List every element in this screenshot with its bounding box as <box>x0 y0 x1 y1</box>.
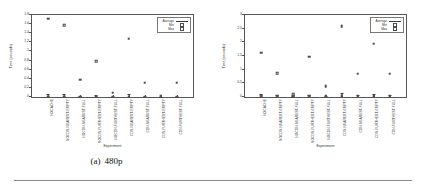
x-axis-title-b: Experiment <box>244 144 407 148</box>
x-tick-mark <box>326 95 327 97</box>
x-tick-mark <box>64 95 65 97</box>
x-tick-mark <box>358 95 359 97</box>
y-axis-ticks-b: 00.511.522.53 <box>213 0 244 84</box>
x-tick-label: NOCDN-FURTHEST-EMPTY <box>98 99 102 143</box>
legend-square-max-icon <box>389 27 401 31</box>
max-marker <box>95 60 98 63</box>
legend-label-max: Max <box>160 27 174 31</box>
max-marker <box>276 72 279 75</box>
max-marker <box>127 37 130 40</box>
legend-square-max-icon <box>176 27 188 31</box>
caption-a-text: 480p <box>105 156 123 166</box>
average-cap <box>340 93 343 94</box>
x-tick-label: CDN-FURTHEST-FULL <box>179 99 183 135</box>
max-marker <box>356 72 359 75</box>
x-tick-mark <box>390 95 391 97</box>
x-tick-label: NOCDN-NEAREST-EMPTY <box>66 99 70 141</box>
legend-a: Average Min Max <box>157 17 191 33</box>
legend-label-max: Max <box>373 27 387 31</box>
x-tick-mark <box>374 95 375 97</box>
max-marker <box>143 82 146 85</box>
max-marker <box>324 85 327 88</box>
x-tick-label: CDN-FURTHEST-EMPTY <box>162 99 166 138</box>
x-tick-label: NOCACHE <box>50 99 54 116</box>
caption-a-number: (a) <box>91 156 101 166</box>
x-tick-label: CDN-NEAREST-EMPTY <box>130 99 134 136</box>
x-tick-label: CDN-NEAREST-FULL <box>146 99 150 133</box>
x-tick-label: CDN-FURTHEST-FULL <box>392 99 396 135</box>
x-tick-label: CDN-FURTHEST-EMPTY <box>375 99 379 138</box>
x-tick-mark <box>48 95 49 97</box>
max-marker <box>308 55 311 58</box>
x-tick-mark <box>80 95 81 97</box>
x-tick-label: NOCDN-NEAREST-FULL <box>82 99 86 138</box>
page-horizontal-rule <box>14 180 412 181</box>
max-marker <box>340 25 343 28</box>
x-tick-mark <box>161 95 162 97</box>
x-tick-mark <box>261 95 262 97</box>
x-tick-mark <box>293 95 294 97</box>
x-tick-mark <box>145 95 146 97</box>
caption-a: (a)480p <box>0 156 213 166</box>
x-tick-label: NOCDN-NEAREST-EMPTY <box>279 99 283 141</box>
x-axis-title-a: Experiment <box>31 144 194 148</box>
max-marker <box>260 51 263 54</box>
x-tick-mark <box>309 95 310 97</box>
x-tick-label: NOCDN-FURTHEST-EMPTY <box>311 99 315 143</box>
max-marker <box>63 24 66 27</box>
plot-area-b: Average Min Max <box>244 14 407 98</box>
x-tick-mark <box>129 95 130 97</box>
max-marker <box>373 42 376 45</box>
plot-area-a: Average Min Max <box>31 14 194 98</box>
max-marker <box>47 17 50 20</box>
x-tick-mark <box>342 95 343 97</box>
max-marker <box>79 78 82 81</box>
x-tick-label: NOCDN-NEAREST-FULL <box>295 99 299 138</box>
max-marker <box>111 92 114 95</box>
x-tick-label: NOCACHE <box>263 99 267 116</box>
x-tick-label: NOCDN-FURTHEST-FULL <box>327 99 331 140</box>
max-marker <box>176 82 179 85</box>
x-axis-tick-labels-b: NOCACHENOCDN-NEAREST-EMPTYNOCDN-NEAREST-… <box>244 99 407 143</box>
x-tick-label: CDN-NEAREST-EMPTY <box>343 99 347 136</box>
x-tick-mark <box>96 95 97 97</box>
x-axis-tick-labels-a: NOCACHENOCDN-NEAREST-EMPTYNOCDN-NEAREST-… <box>31 99 194 143</box>
x-tick-mark <box>277 95 278 97</box>
legend-b: Average Min Max <box>370 17 404 33</box>
figure-panel-a: Time (seconds) 00.20.40.60.811.21.41.61.… <box>0 0 213 155</box>
legend-entry-max: Max <box>160 27 188 31</box>
max-marker <box>389 72 392 75</box>
x-tick-label: NOCDN-FURTHEST-FULL <box>114 99 118 140</box>
legend-line-icon <box>389 21 401 22</box>
x-tick-mark <box>113 95 114 97</box>
x-tick-label: CDN-NEAREST-FULL <box>359 99 363 133</box>
figure-page: Time (seconds) 00.20.40.60.811.21.41.61.… <box>0 0 426 189</box>
y-axis-ticks-a: 00.20.40.60.811.21.41.61.8 <box>0 0 31 84</box>
legend-entry-max: Max <box>373 27 401 31</box>
legend-line-icon <box>176 21 188 22</box>
x-tick-mark <box>177 95 178 97</box>
figure-panel-b: Time (seconds) 00.511.522.53 Average Min… <box>213 0 426 155</box>
figure-row: Time (seconds) 00.20.40.60.811.21.41.61.… <box>0 0 426 155</box>
